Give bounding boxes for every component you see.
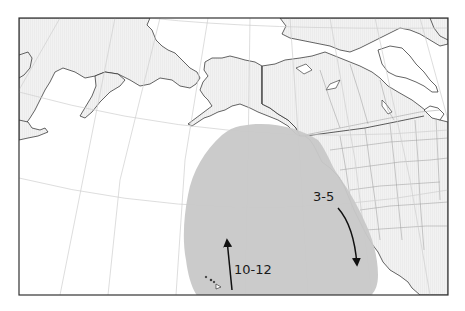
map-figure: 3-5 10-12 <box>0 0 465 311</box>
map-content: 3-5 10-12 <box>19 18 448 300</box>
label-10-12: 10-12 <box>234 262 272 277</box>
label-3-5: 3-5 <box>313 189 334 204</box>
